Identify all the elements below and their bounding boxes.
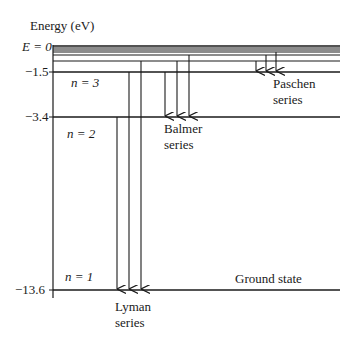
paschen-series-label: Paschen series [273,76,316,108]
paschen-label-line2: series [273,92,316,108]
energy-level-diagram [0,0,358,345]
level-label-n2: n = 2 [67,127,95,141]
balmer-label-line1: Balmer [164,121,202,137]
balmer-arrows [165,55,189,116]
tick-label-n1: −13.6 [15,283,45,297]
ground-state-label: Ground state [235,272,302,286]
tick-label-zero-text: E = 0 [22,39,52,54]
lyman-label-line2: series [115,315,151,331]
paschen-label-line1: Paschen [273,76,316,92]
tick-label-n2: −3.4 [25,110,49,124]
lyman-series-label: Lyman series [115,299,151,331]
balmer-label-line2: series [164,137,202,153]
balmer-series-label: Balmer series [164,121,202,153]
tick-label-zero: E = 0 [22,40,52,54]
tick-label-n3: −1.5 [25,65,49,79]
axis-title: Energy (eV) [30,19,94,33]
level-label-n3: n = 3 [71,76,99,90]
lyman-label-line1: Lyman [115,299,151,315]
lyman-arrows [117,61,141,289]
level-label-n1: n = 1 [65,270,93,284]
